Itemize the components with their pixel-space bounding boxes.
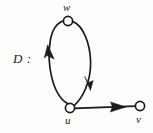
arrowhead-u-to-v xyxy=(110,102,126,112)
digraph-figure: D : w u v xyxy=(0,0,153,133)
vertex-u xyxy=(65,103,74,112)
arc-w-to-u-path xyxy=(72,21,90,105)
digraph-caption-label: D : xyxy=(13,52,31,65)
vertex-label-v: v xyxy=(136,114,141,125)
arc-w-to-u xyxy=(72,21,93,105)
vertex-v xyxy=(135,101,144,110)
vertex-w xyxy=(63,16,72,25)
vertex-label-w: w xyxy=(63,2,70,13)
arc-u-to-v-path xyxy=(74,106,135,108)
arc-u-to-w-path xyxy=(49,21,67,104)
arc-u-to-w xyxy=(44,21,67,104)
vertex-label-u: u xyxy=(65,115,71,126)
arc-u-to-v xyxy=(74,102,135,112)
graph-canvas xyxy=(0,0,153,133)
